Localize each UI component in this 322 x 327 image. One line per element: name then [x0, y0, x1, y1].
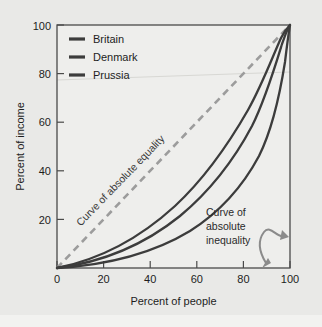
y-tick-label-40: 40 [39, 165, 51, 177]
chart-figure: 0 20 40 60 80 100 20 40 60 80 100 Percen… [0, 0, 322, 327]
annotation-inequality-line-3: inequality [206, 234, 251, 246]
annotation-curve-of-absolute-inequality: Curve of absolute inequality [206, 206, 251, 246]
x-tick-label-0: 0 [54, 273, 60, 285]
y-tick-label-20: 20 [39, 214, 51, 226]
annotation-inequality-line-2: absolute [206, 220, 246, 232]
x-tick-label-40: 40 [144, 273, 156, 285]
legend-label-prussia: Prussia [93, 69, 131, 81]
x-tick-label-80: 80 [237, 273, 249, 285]
lorenz-curve-chart: 0 20 40 60 80 100 20 40 60 80 100 Percen… [0, 0, 322, 327]
legend-label-denmark: Denmark [93, 51, 138, 63]
y-axis-title: Percent of income [14, 102, 26, 191]
y-tick-label-100: 100 [33, 20, 51, 32]
x-tick-label-100: 100 [281, 273, 299, 285]
legend-label-britain: Britain [93, 33, 124, 45]
x-tick-label-60: 60 [191, 273, 203, 285]
annotation-inequality-line-1: Curve of [206, 206, 246, 218]
x-tick-label-20: 20 [97, 273, 109, 285]
y-tick-label-80: 80 [39, 68, 51, 80]
x-axis-title: Percent of people [130, 295, 216, 307]
y-tick-label-60: 60 [39, 116, 51, 128]
